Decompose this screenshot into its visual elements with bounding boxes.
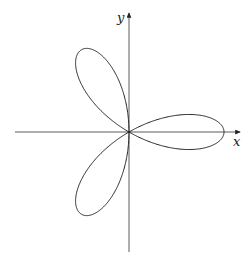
rose-curve-diagram: x y [0,0,250,262]
y-axis-label: y [116,10,125,25]
x-axis-label: x [233,134,241,149]
